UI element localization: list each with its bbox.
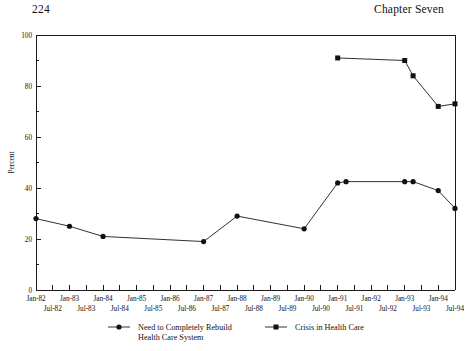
series-1	[33, 179, 457, 244]
x-axis-tick-label: Jul-85	[144, 305, 162, 313]
data-point-marker	[201, 239, 206, 244]
data-point-marker	[100, 234, 105, 239]
data-point-marker	[67, 224, 72, 229]
series-line	[36, 182, 455, 242]
x-axis-tick-label: Jan-86	[160, 295, 180, 303]
x-axis-ticks: Jan-82Jul-82Jan-83Jul-83Jan-84Jul-84Jan-…	[26, 285, 464, 313]
legend-entry-1: Need to Completely RebuildHealth Care Sy…	[108, 323, 232, 342]
x-axis-tick-label: Jan-89	[261, 295, 281, 303]
x-axis-tick-label: Jul-90	[312, 305, 330, 313]
data-point-marker	[436, 104, 441, 109]
x-axis-tick-label: Jul-84	[111, 305, 129, 313]
chart-axes: 020406080100	[21, 32, 455, 295]
x-axis-tick-label: Jan-92	[362, 295, 382, 303]
series-2	[335, 55, 457, 108]
x-axis-tick-label: Jan-87	[194, 295, 214, 303]
data-point-marker	[335, 55, 340, 60]
x-axis-tick-label: Jul-94	[446, 305, 464, 313]
legend-marker	[116, 324, 121, 329]
y-axis-tick-label: 0	[28, 287, 32, 295]
x-axis-tick-label: Jul-86	[178, 305, 196, 313]
legend-entry-2: Crisis in Health Care	[265, 323, 364, 332]
x-axis-tick-label: Jan-85	[127, 295, 147, 303]
chart-series	[33, 55, 457, 244]
x-axis-tick-label: Jul-93	[412, 305, 430, 313]
legend-label: Crisis in Health Care	[295, 323, 364, 332]
legend-label-line2: Health Care System	[138, 333, 204, 342]
data-point-marker	[453, 101, 458, 106]
y-axis-title-group: Percent	[7, 150, 16, 173]
x-axis-tick-label: Jul-87	[211, 305, 229, 313]
page-folio: 224	[32, 3, 50, 15]
y-axis-tick-label: 20	[25, 236, 33, 244]
legend-label: Need to Completely Rebuild	[138, 323, 232, 332]
x-axis-tick-label: Jan-84	[93, 295, 113, 303]
data-point-marker	[33, 216, 38, 221]
data-point-marker	[411, 179, 416, 184]
x-axis-tick-label: Jul-92	[379, 305, 397, 313]
y-axis-title: Percent	[7, 150, 16, 173]
x-axis-tick-label: Jan-94	[429, 295, 449, 303]
x-axis-tick-label: Jan-82	[26, 295, 46, 303]
data-point-marker	[402, 179, 407, 184]
chart-figure: 020406080100 Percent Jan-82Jul-82Jan-83J…	[0, 22, 466, 351]
x-axis-tick-label: Jul-91	[345, 305, 363, 313]
x-axis-tick-label: Jul-83	[77, 305, 95, 313]
data-point-marker	[343, 179, 348, 184]
x-axis-tick-label: Jan-93	[395, 295, 415, 303]
data-point-marker	[402, 58, 407, 63]
x-axis-tick-label: Jan-91	[328, 295, 348, 303]
y-axis-tick-label: 40	[25, 185, 33, 193]
y-axis-tick-label: 80	[25, 83, 33, 91]
series-line	[338, 58, 455, 106]
x-axis-tick-label: Jan-90	[295, 295, 315, 303]
line-chart: 020406080100 Percent Jan-82Jul-82Jan-83J…	[0, 22, 466, 351]
x-axis-tick-label: Jul-89	[278, 305, 296, 313]
plot-frame	[36, 35, 455, 290]
data-point-marker	[235, 213, 240, 218]
y-axis-tick-label: 60	[25, 134, 33, 142]
y-axis-tick-label: 100	[21, 32, 32, 40]
book-page: 224 Chapter Seven 020406080100 Percent J…	[0, 0, 466, 351]
x-axis-tick-label: Jul-82	[44, 305, 62, 313]
running-head-chapter: Chapter Seven	[374, 3, 444, 15]
data-point-marker	[302, 226, 307, 231]
data-point-marker	[411, 73, 416, 78]
chart-legend: Need to Completely RebuildHealth Care Sy…	[108, 323, 364, 342]
x-axis-tick-label: Jul-88	[245, 305, 263, 313]
x-axis-tick-label: Jan-83	[60, 295, 80, 303]
data-point-marker	[436, 188, 441, 193]
x-axis-tick-label: Jan-88	[228, 295, 248, 303]
data-point-marker	[335, 180, 340, 185]
legend-marker	[274, 325, 279, 330]
data-point-marker	[452, 206, 457, 211]
